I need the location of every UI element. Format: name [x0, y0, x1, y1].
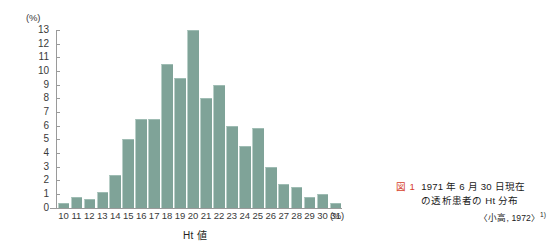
histogram-bar [84, 199, 96, 207]
histogram-bar [109, 175, 121, 208]
bar-slot [122, 30, 134, 208]
bar-slot [200, 30, 212, 208]
bar-slot [109, 30, 121, 208]
bar-slot [330, 30, 342, 208]
bar-slot [239, 30, 251, 208]
histogram-bar [71, 197, 83, 208]
histogram-bar [161, 64, 173, 207]
histogram-bar [97, 192, 109, 207]
bar-slot [97, 30, 109, 208]
bar-slot [278, 30, 290, 208]
y-axis-tick-label: 10 [2, 64, 56, 77]
bar-slot [71, 30, 83, 208]
bar-slot [317, 30, 329, 208]
y-axis-tick-label: 2 [2, 173, 56, 186]
y-axis-tick-label: 8 [2, 91, 56, 104]
histogram-bar [200, 98, 212, 207]
bar-slot [304, 30, 316, 208]
histogram-bar [213, 85, 225, 208]
caption-line-1: 1971 年 6 月 30 日現在 [421, 180, 546, 194]
histogram-bar [226, 126, 238, 208]
bar-slot [58, 30, 70, 208]
histogram-bar [135, 119, 147, 208]
caption-source: 〈小高, 1972〉1) [396, 208, 546, 225]
y-axis-tick-label: 7 [2, 105, 56, 118]
caption-text: 1971 年 6 月 30 日現在 の透析患者の Ht 分布 [421, 180, 546, 207]
x-axis-line [50, 208, 342, 209]
bar-slot [187, 30, 199, 208]
histogram-bar [265, 167, 277, 208]
x-axis-unit-label: (%) [330, 210, 344, 221]
bar-slot [135, 30, 147, 208]
histogram-bar [148, 119, 160, 208]
figure-caption: 図 1 1971 年 6 月 30 日現在 の透析患者の Ht 分布 〈小高, … [396, 180, 546, 226]
histogram-bar [174, 78, 186, 208]
y-axis-tick-label: 12 [2, 37, 56, 50]
y-axis-tick-label: 9 [2, 78, 56, 91]
bar-slot [226, 30, 238, 208]
histogram-bar [304, 197, 316, 208]
figure-number-tag: 図 1 [396, 180, 415, 194]
y-axis-tick-label: 1 [2, 187, 56, 200]
bar-slot [84, 30, 96, 208]
histogram-bar [187, 30, 199, 208]
y-axis-unit-label: (%) [26, 12, 40, 23]
histogram-bar [317, 194, 329, 208]
y-axis-tick-label: 0 [2, 201, 56, 214]
caption-line-2: の透析患者の Ht 分布 [421, 194, 546, 208]
y-axis-tick-label: 5 [2, 132, 56, 145]
caption-source-text: 〈小高, 1972〉 [479, 213, 540, 223]
y-axis-tick-label: 13 [2, 23, 56, 36]
caption-source-ref: 1) [540, 211, 546, 218]
histogram-chart: (%) 012345678910111213 10111213141516171… [0, 0, 382, 252]
histogram-bar [239, 146, 251, 207]
histogram-bar [58, 203, 70, 207]
histogram-bar [278, 184, 290, 207]
bar-slot [265, 30, 277, 208]
y-axis-tick-label: 6 [2, 119, 56, 132]
histogram-bar [252, 128, 264, 207]
histogram-bar [330, 203, 342, 207]
bar-slot [252, 30, 264, 208]
bars-group [57, 30, 342, 208]
histogram-bar [291, 187, 303, 207]
figure-container: (%) 012345678910111213 10111213141516171… [0, 0, 552, 252]
y-axis-tick-label: 3 [2, 160, 56, 173]
y-axis-tick-mark [56, 208, 60, 209]
bar-slot [148, 30, 160, 208]
bar-slot [174, 30, 186, 208]
y-axis-tick-label: 4 [2, 146, 56, 159]
bar-slot [291, 30, 303, 208]
bar-slot [161, 30, 173, 208]
y-axis-tick-label: 11 [2, 50, 56, 63]
bar-slot [213, 30, 225, 208]
x-axis-title: Ht 値 [183, 227, 207, 242]
histogram-bar [122, 139, 134, 207]
